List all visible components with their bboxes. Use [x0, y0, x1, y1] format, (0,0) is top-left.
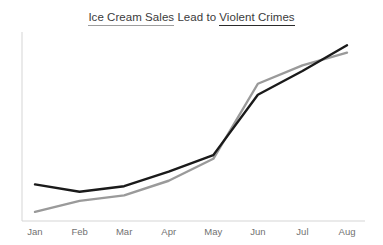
- x-tick-label-aug: Aug: [339, 226, 356, 237]
- x-tick-label-may: May: [204, 226, 222, 237]
- series-line-ice-cream-sales: [35, 53, 347, 212]
- x-tick-label-feb: Feb: [71, 226, 87, 237]
- x-axis-tick-labels: JanFebMarAprMayJunJulAug: [0, 226, 383, 242]
- chart-container: Ice Cream Sales Lead to Violent Crimes J…: [0, 0, 383, 245]
- x-tick-label-jun: Jun: [250, 226, 265, 237]
- plot-area: [0, 0, 383, 245]
- x-tick-label-jul: Jul: [296, 226, 308, 237]
- x-tick-label-jan: Jan: [27, 226, 42, 237]
- x-tick-label-apr: Apr: [161, 226, 176, 237]
- x-tick-label-mar: Mar: [116, 226, 132, 237]
